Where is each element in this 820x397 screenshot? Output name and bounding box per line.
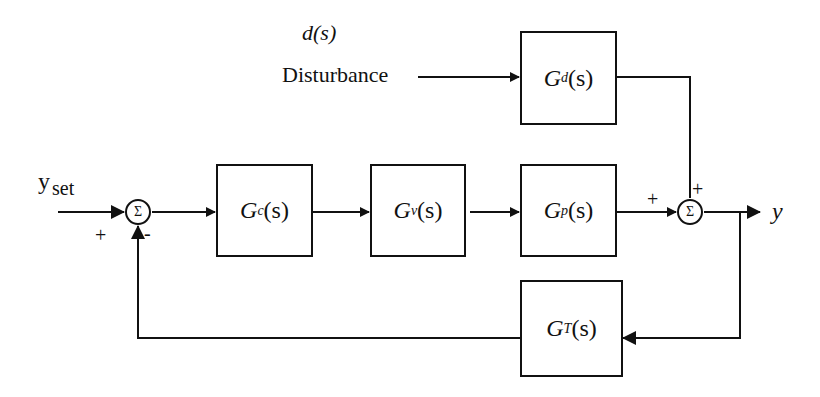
setpoint-label: yset [38,168,74,195]
block-argument: (s) [264,197,289,224]
disturbance-block-gd: Gd(s) [520,31,617,125]
sign-plus-process: + [647,188,658,211]
output-label: y [772,198,783,225]
transmitter-block-gt: GT(s) [520,280,623,377]
valve-block-gv: Gv(s) [370,164,466,257]
block-subscript: p [561,203,568,219]
sign-minus-feedback: - [144,222,151,245]
sign-plus-disturbance: + [692,178,703,201]
block-symbol: G [544,65,561,92]
block-symbol: G [544,197,561,224]
sigma-icon: Σ [134,204,142,220]
block-symbol: G [394,197,411,224]
sigma-icon: Σ [686,204,694,220]
setpoint-symbol: y [38,168,50,194]
sign-plus-setpoint: + [95,224,106,247]
block-argument: (s) [571,315,596,342]
block-subscript: T [564,321,572,337]
process-block-gp: Gp(s) [520,164,617,257]
setpoint-subscript: set [52,177,74,199]
block-argument: (s) [568,65,593,92]
block-subscript: d [561,70,568,86]
block-argument: (s) [568,197,593,224]
disturbance-symbol: d(s) [302,20,336,46]
block-symbol: G [546,315,563,342]
block-symbol: G [240,197,257,224]
controller-block-gc: Gc(s) [216,164,313,257]
summing-junction-2: Σ [677,199,703,225]
block-argument: (s) [417,197,442,224]
disturbance-label: Disturbance [282,62,388,88]
